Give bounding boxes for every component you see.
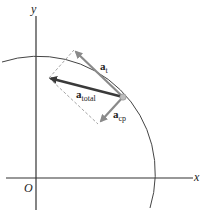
origin-label: O	[24, 181, 33, 196]
y-axis-label: y	[31, 2, 36, 17]
total-acceleration-label: atotal	[76, 88, 96, 103]
centripetal-acceleration-label: acp	[113, 108, 126, 123]
dashed-guide	[49, 50, 74, 78]
particle	[120, 94, 126, 100]
circular-motion-diagram: y x O at atotal acp	[0, 0, 202, 214]
tangential-acceleration-label: at	[100, 60, 108, 75]
x-axis-label: x	[194, 170, 199, 185]
